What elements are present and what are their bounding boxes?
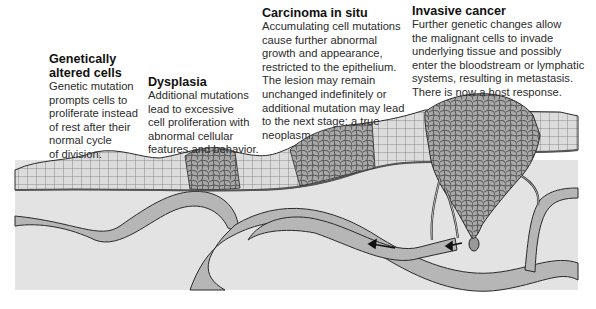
stage-text: proliferate instead [49,107,138,121]
stage-text: abnormal cellular [148,130,259,144]
stage-text: Accumulating cell mutations [262,20,404,34]
stage-title: Invasive cancer [412,4,584,18]
stage-carcinoma-in-situ: Carcinoma in situ Accumulating cell muta… [262,6,404,142]
stage-text: Further genetic changes allow [412,18,584,32]
stage-text: The lesion may remain [262,74,404,88]
stage-text: prompts cells to [49,94,138,108]
stage-text: underlying tissue and possibly [412,45,584,59]
stage-title: altered cells [49,66,138,80]
stage-title: Carcinoma in situ [262,6,404,20]
stage-title: Dysplasia [148,75,259,89]
stage-text: Additional mutations [148,89,259,103]
stage-text: normal cycle [49,134,138,148]
stage-title: Genetically [49,52,138,66]
stage-text: cause further abnormal [262,34,404,48]
stage-text: of rest after their [49,121,138,135]
stage-text: to the next stage: a true [262,115,404,129]
vessel-cross-section [469,237,479,251]
stage-genetically-altered-cells: Genetically altered cells Genetic mutati… [49,52,138,162]
stage-text: systems, resulting in metastasis. [412,72,584,86]
stage-text: restricted to the epithelium. [262,61,404,75]
stage-invasive-cancer: Invasive cancer Further genetic changes … [412,4,584,100]
stage-text: the malignant cells to invade [412,32,584,46]
stage-text: neoplasm. [262,129,404,143]
stage-text: Genetic mutation [49,80,138,94]
stage-text: of division. [49,148,138,162]
stage-text: unchanged indefinitely or [262,88,404,102]
stage-dysplasia: Dysplasia Additional mutations lead to e… [148,75,259,157]
stage-text: lead to excessive [148,103,259,117]
stage-text: There is now a host response. [412,86,584,100]
stage-text: growth and appearance, [262,47,404,61]
stage-text: additional mutation may lead [262,102,404,116]
stage-text: enter the bloodstream or lymphatic [412,59,584,73]
stage-text: features and behavior. [148,143,259,157]
stage-text: cell proliferation with [148,116,259,130]
